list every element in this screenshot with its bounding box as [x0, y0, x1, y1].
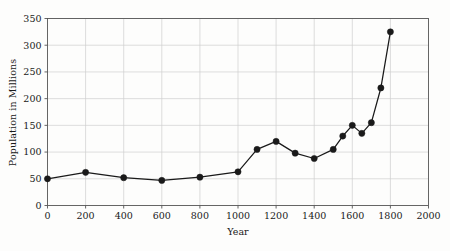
data-point-marker [330, 146, 336, 152]
y-tick-label: 50 [29, 173, 41, 184]
data-point-marker [378, 85, 384, 91]
data-point-marker [235, 169, 241, 175]
data-point-marker [273, 138, 279, 144]
data-point-marker [340, 133, 346, 139]
y-tick-label: 150 [23, 120, 41, 131]
data-point-marker [159, 177, 165, 183]
y-tick-label: 200 [23, 93, 41, 104]
x-axis-title-label: Year [226, 226, 249, 237]
data-markers [44, 29, 393, 184]
x-axis-ticks: 0200400600800100012001400160018002000 [44, 206, 440, 222]
data-point-marker [349, 122, 355, 128]
x-tick-label: 200 [77, 210, 95, 221]
x-tick-label: 1800 [378, 210, 402, 221]
data-point-marker [121, 175, 127, 181]
chart-canvas: 050100150200250300350 020040060080010001… [0, 0, 450, 251]
data-point-marker [83, 169, 89, 175]
data-point-marker [292, 150, 298, 156]
x-tick-label: 600 [153, 210, 171, 221]
x-tick-label: 2000 [416, 210, 440, 221]
data-point-marker [44, 176, 50, 182]
y-tick-label: 300 [23, 40, 41, 51]
data-point-marker [311, 155, 317, 161]
x-tick-label: 1200 [264, 210, 288, 221]
data-point-marker [387, 29, 393, 35]
data-point-marker [254, 146, 260, 152]
population-polyline [48, 32, 391, 181]
y-tick-label: 100 [23, 146, 41, 157]
x-tick-label: 1600 [340, 210, 364, 221]
x-tick-label: 400 [115, 210, 133, 221]
data-point-marker [368, 120, 374, 126]
data-point-marker [359, 130, 365, 136]
data-line [48, 32, 391, 181]
x-tick-label: 1400 [302, 210, 326, 221]
x-tick-label: 800 [191, 210, 209, 221]
x-tick-label: 0 [44, 210, 50, 221]
y-tick-label: 250 [23, 66, 41, 77]
x-tick-label: 1000 [226, 210, 250, 221]
grid-lines [48, 19, 429, 206]
data-point-marker [197, 174, 203, 180]
x-axis-title: Year [226, 226, 249, 237]
y-tick-label: 350 [23, 13, 41, 24]
y-tick-label: 0 [35, 200, 41, 211]
y-axis-ticks: 050100150200250300350 [23, 13, 47, 211]
population-line-chart: Population in Millions 05010015020025030… [0, 0, 450, 251]
